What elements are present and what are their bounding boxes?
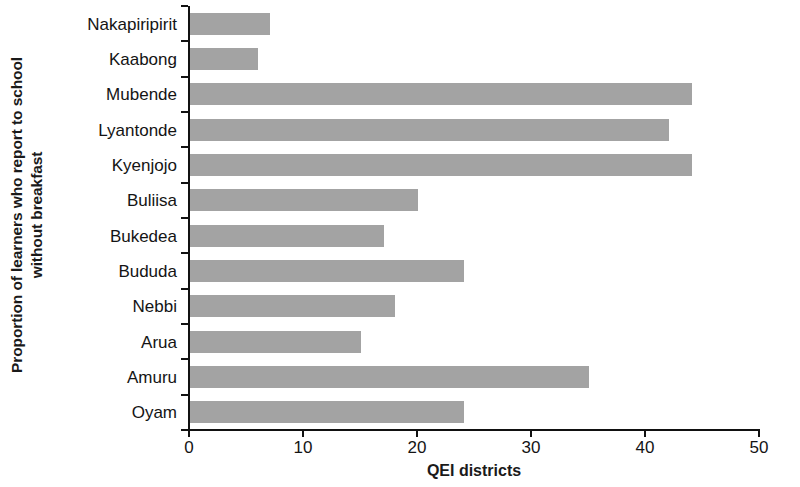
y-axis-title-line-1: Proportion of learners who report to sch… <box>8 57 25 373</box>
bar-row: Kaabong <box>188 41 758 76</box>
x-axis-tick-label: 0 <box>184 438 193 458</box>
bar <box>190 225 384 247</box>
category-label: Kyenjojo <box>112 155 177 174</box>
y-axis-tick <box>181 394 188 396</box>
category-label: Mubende <box>106 85 177 104</box>
bar <box>190 154 692 176</box>
bar-row: Lyantonde <box>188 112 758 147</box>
bar <box>190 189 418 211</box>
y-axis-tick <box>181 288 188 290</box>
x-axis-tick-label: 50 <box>750 438 769 458</box>
bar <box>190 119 669 141</box>
bar-row: Nakapiripirit <box>188 6 758 41</box>
y-axis-tick <box>181 5 188 7</box>
y-axis-tick <box>181 252 188 254</box>
plot-area: NakapiripiritKaabongMubendeLyantondeKyen… <box>188 6 758 430</box>
bar <box>190 260 464 282</box>
x-axis-tick-label: 10 <box>294 438 313 458</box>
category-label: Amuru <box>127 367 177 386</box>
bar <box>190 13 270 35</box>
x-axis-tick <box>302 429 304 437</box>
category-label: Arua <box>141 332 177 351</box>
y-axis-title: Proportion of learners who report to sch… <box>0 0 54 430</box>
category-label: Nebbi <box>133 297 177 316</box>
bar <box>190 331 361 353</box>
y-axis-title-line-2: without breakfast <box>27 57 47 373</box>
bar-row: Mubende <box>188 77 758 112</box>
category-label: Nakapiripirit <box>87 14 177 33</box>
category-label: Buliisa <box>127 191 177 210</box>
x-axis-title: QEI districts <box>188 462 760 480</box>
category-label: Kaabong <box>109 49 177 68</box>
bar <box>190 366 589 388</box>
bar-row: Bududa <box>188 253 758 288</box>
x-axis-tick-label: 20 <box>408 438 427 458</box>
y-axis-tick <box>181 217 188 219</box>
y-axis-tick <box>181 358 188 360</box>
y-axis-tick <box>181 429 188 431</box>
bar <box>190 48 258 70</box>
bar-row: Buliisa <box>188 183 758 218</box>
x-axis-tick <box>530 429 532 437</box>
category-label: Bukedea <box>110 226 177 245</box>
bar <box>190 401 464 423</box>
y-axis-tick <box>181 146 188 148</box>
bar-row: Bukedea <box>188 218 758 253</box>
bar-row: Nebbi <box>188 289 758 324</box>
x-axis-tick <box>644 429 646 437</box>
x-axis-tick <box>416 429 418 437</box>
bar-row: Kyenjojo <box>188 147 758 182</box>
y-axis-tick <box>181 40 188 42</box>
x-axis-tick <box>188 429 190 437</box>
x-axis-tick <box>758 429 760 437</box>
category-label: Bududa <box>118 261 177 280</box>
y-axis-tick <box>181 323 188 325</box>
x-axis-tick-label: 40 <box>636 438 655 458</box>
bar-chart: Proportion of learners who report to sch… <box>0 0 800 487</box>
y-axis-tick <box>181 76 188 78</box>
category-label: Oyam <box>132 403 177 422</box>
bar-row: Amuru <box>188 359 758 394</box>
bar <box>190 295 395 317</box>
bar <box>190 83 692 105</box>
category-label: Lyantonde <box>98 120 177 139</box>
y-axis-tick <box>181 111 188 113</box>
bar-row: Arua <box>188 324 758 359</box>
x-axis-tick-label: 30 <box>522 438 541 458</box>
bar-row: Oyam <box>188 395 758 430</box>
y-axis-tick <box>181 182 188 184</box>
